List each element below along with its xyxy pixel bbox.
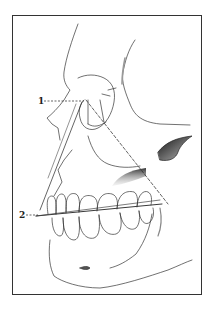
occlusal-line xyxy=(36,204,162,216)
orbit-curve xyxy=(123,40,190,125)
label-1: 1 xyxy=(38,97,44,106)
label-2: 2 xyxy=(19,211,25,220)
skull-illustration xyxy=(0,0,214,313)
nose-profile xyxy=(47,24,78,140)
upper-teeth xyxy=(47,192,151,214)
nasal-aperture xyxy=(78,75,115,130)
zygomatic-arch xyxy=(158,136,192,161)
facial-line-1 xyxy=(86,100,168,204)
